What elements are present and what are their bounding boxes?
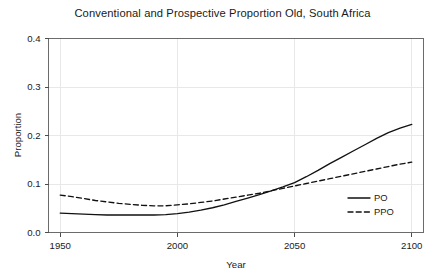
gridlines	[49, 39, 424, 233]
series-line-po	[60, 124, 412, 215]
y-tick-label: 0.1	[27, 178, 40, 189]
y-axis: 0.00.10.20.30.4	[27, 33, 48, 238]
y-tick-label: 0.3	[27, 81, 40, 92]
x-tick-label: 2100	[401, 240, 422, 251]
y-tick-label: 0.4	[27, 33, 41, 44]
x-tick-label: 2050	[284, 240, 305, 251]
x-axis: 1950200020502100	[50, 233, 423, 251]
y-tick-label: 0.2	[27, 130, 40, 141]
y-tick-label: 0.0	[27, 227, 40, 238]
line-chart-plot: 0.00.10.20.30.4 1950200020502100 Proport…	[0, 0, 445, 277]
chart-legend: POPPO	[348, 192, 394, 217]
x-tick-label: 1950	[50, 240, 71, 251]
x-axis-title: Year	[226, 259, 246, 270]
legend-label-ppo: PPO	[374, 206, 394, 217]
chart-figure: Conventional and Prospective Proportion …	[0, 0, 445, 277]
data-series	[60, 124, 412, 215]
legend-label-po: PO	[374, 192, 388, 203]
y-axis-title: Proportion	[12, 113, 23, 157]
x-tick-label: 2000	[167, 240, 188, 251]
